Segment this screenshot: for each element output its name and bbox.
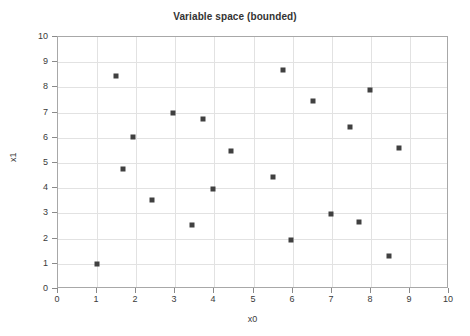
data-point — [190, 222, 195, 227]
data-point — [281, 68, 286, 73]
y-axis-tick — [52, 187, 57, 188]
y-axis-tick-label: 7 — [18, 107, 48, 117]
y-axis-tick-label: 10 — [18, 31, 48, 41]
y-axis-tick — [52, 137, 57, 138]
x-axis-tick — [253, 288, 254, 293]
y-axis-tick-label: 6 — [18, 132, 48, 142]
x-axis-tick — [213, 288, 214, 293]
y-axis-tick — [52, 238, 57, 239]
y-axis-tick — [52, 86, 57, 87]
data-point — [328, 212, 333, 217]
x-axis-tick-label: 9 — [394, 294, 424, 304]
x-axis-tick-label: 1 — [81, 294, 111, 304]
y-axis-tick-label: 1 — [18, 258, 48, 268]
y-axis-tick-label: 9 — [18, 56, 48, 66]
data-point — [210, 186, 215, 191]
y-axis-tick — [52, 162, 57, 163]
x-axis-tick — [448, 288, 449, 293]
y-axis-tick-label: 8 — [18, 81, 48, 91]
x-axis-tick — [331, 288, 332, 293]
x-axis-tick — [135, 288, 136, 293]
x-axis-tick-label: 4 — [198, 294, 228, 304]
y-axis-tick — [52, 288, 57, 289]
scatter-chart: Variable space (bounded) 012345678910012… — [0, 0, 470, 336]
data-point — [289, 238, 294, 243]
y-axis-tick — [52, 36, 57, 37]
x-axis-tick — [409, 288, 410, 293]
data-point — [201, 116, 206, 121]
y-axis-tick — [52, 112, 57, 113]
data-points-layer — [58, 37, 447, 287]
data-point — [348, 124, 353, 129]
x-axis-tick-label: 8 — [355, 294, 385, 304]
x-axis-tick-label: 3 — [159, 294, 189, 304]
x-axis-tick — [174, 288, 175, 293]
x-axis-tick — [292, 288, 293, 293]
data-point — [357, 219, 362, 224]
data-point — [271, 175, 276, 180]
x-axis-tick-label: 2 — [120, 294, 150, 304]
y-axis-tick — [52, 263, 57, 264]
y-axis-tick — [52, 212, 57, 213]
data-point — [131, 135, 136, 140]
data-point — [120, 167, 125, 172]
data-point — [113, 74, 118, 79]
x-axis-tick-label: 6 — [277, 294, 307, 304]
y-axis-tick-label: 2 — [18, 233, 48, 243]
x-axis-tick-label: 5 — [238, 294, 268, 304]
x-axis-tick-label: 10 — [433, 294, 463, 304]
y-axis-label: x1 — [8, 152, 18, 162]
y-axis-tick-label: 0 — [18, 283, 48, 293]
data-point — [149, 198, 154, 203]
x-axis-label: x0 — [57, 314, 448, 324]
chart-title: Variable space (bounded) — [0, 11, 470, 22]
y-axis-tick-label: 4 — [18, 182, 48, 192]
data-point — [310, 99, 315, 104]
data-point — [229, 148, 234, 153]
data-point — [95, 261, 100, 266]
data-point — [396, 145, 401, 150]
x-axis-tick-label: 0 — [42, 294, 72, 304]
data-point — [368, 87, 373, 92]
data-point — [386, 253, 391, 258]
x-axis-tick — [96, 288, 97, 293]
y-axis-tick — [52, 61, 57, 62]
data-point — [170, 111, 175, 116]
x-axis-tick — [370, 288, 371, 293]
y-axis-tick-label: 5 — [18, 157, 48, 167]
x-axis-tick-label: 7 — [316, 294, 346, 304]
x-axis-tick — [57, 288, 58, 293]
y-axis-tick-label: 3 — [18, 207, 48, 217]
plot-area — [57, 36, 448, 288]
